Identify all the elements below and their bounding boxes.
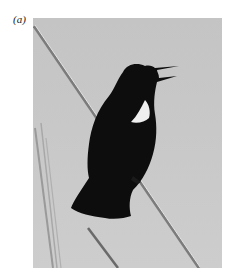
- bird-photograph: [33, 18, 222, 268]
- bird-photo-illustration: [33, 18, 222, 268]
- panel-label: (a): [13, 13, 26, 25]
